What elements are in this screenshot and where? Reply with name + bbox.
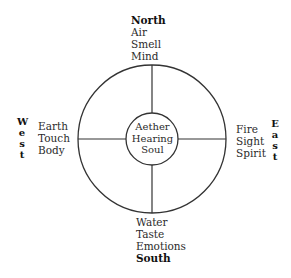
east-letter: s <box>270 140 280 151</box>
east-element: Fire <box>236 123 266 135</box>
west-sense: Touch <box>38 132 70 144</box>
west-letter: s <box>17 138 27 149</box>
east-letter: E <box>270 118 280 129</box>
east-label-group: Fire Sight Spirit <box>236 123 266 159</box>
south-label-group: Water Taste Emotions South <box>136 216 186 264</box>
center-element: Aether <box>127 121 178 133</box>
west-aspect: Body <box>38 144 70 156</box>
west-label-group: Earth Touch Body <box>38 120 70 156</box>
east-sense: Sight <box>236 135 266 147</box>
north-aspect: Mind <box>131 50 166 62</box>
south-sense: Taste <box>136 228 186 240</box>
east-aspect: Spirit <box>236 147 266 159</box>
east-letter: a <box>270 129 280 140</box>
north-label-group: North Air Smell Mind <box>131 14 166 62</box>
center-sense: Hearing <box>127 133 178 145</box>
north-sense: Smell <box>131 38 166 50</box>
west-letter: e <box>17 127 27 138</box>
west-element: Earth <box>38 120 70 132</box>
center-label-group: Aether Hearing Soul <box>127 121 178 156</box>
center-aspect: Soul <box>127 144 178 156</box>
north-heading: North <box>131 14 166 26</box>
west-letter: t <box>17 149 27 160</box>
east-heading: E a s t <box>270 118 280 162</box>
west-letter: W <box>17 116 27 127</box>
north-element: Air <box>131 26 166 38</box>
west-heading: W e s t <box>17 116 27 160</box>
east-letter: t <box>270 151 280 162</box>
south-aspect: Emotions <box>136 240 186 252</box>
south-heading: South <box>136 252 186 264</box>
south-element: Water <box>136 216 186 228</box>
